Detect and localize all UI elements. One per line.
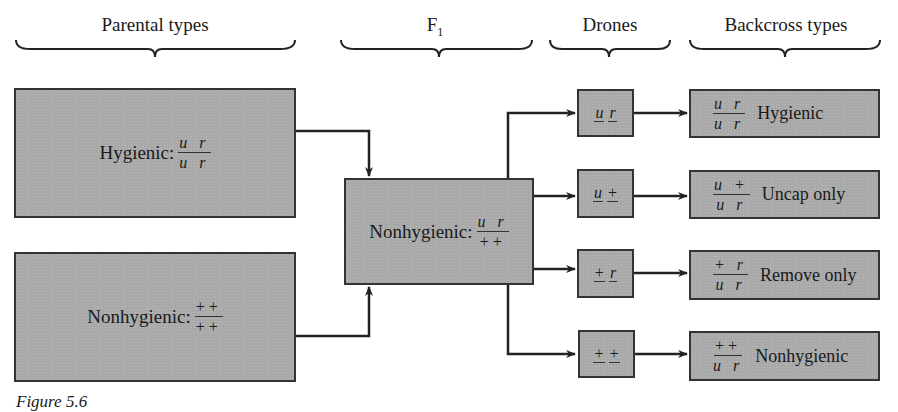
brace-backcross-icon [690,40,880,57]
parental-hygienic-label: Hygienic: [99,142,174,164]
brace-parental-icon [16,40,295,57]
drone-allele-2: + [607,185,618,202]
backcross-label: Nonhygienic [755,346,848,367]
genotype-numerator: + r [713,257,748,275]
drone-box-2: u+ [577,169,634,218]
figure-caption: Figure 5.6 [16,392,87,412]
drone-allele-1: + [594,265,605,282]
f1-box: Nonhygienic: u r ++ [344,178,534,285]
genotype-denominator: ++ [480,232,506,250]
genotype-denominator: u r [716,195,746,213]
backcross-genotype: u + u r [713,177,750,213]
drone-box-1: ur [577,89,634,137]
drone-allele-2: r [609,265,617,282]
brace-f1-icon [341,40,532,57]
backcross-genotype: u r u r [713,96,745,132]
genotype-denominator: u r [713,356,743,374]
parental-hygienic-genotype: u r u r [178,135,210,171]
drone-allele-2: r [608,105,616,122]
backcross-box-uncap-only: u + u r Uncap only [689,170,880,219]
parental-nonhygienic-genotype: ++ ++ [195,299,223,335]
drone-box-3: +r [577,249,634,298]
arrow-f1-to-drone-1 [508,113,575,178]
backcross-genotype: + r u r [713,257,748,293]
backcross-box-remove-only: + r u r Remove only [689,250,880,300]
drone-allele-1: u [594,105,604,122]
f1-genotype: u r ++ [477,214,509,250]
backcross-label: Hygienic [757,103,823,124]
arrow-hygienic-to-f1 [295,131,369,176]
drone-allele-1: + [593,346,604,363]
genotype-denominator: u r [715,275,745,293]
arrow-f1-to-drone-4 [508,284,575,354]
genotype-denominator: u r [714,114,744,132]
drone-box-4: ++ [578,330,635,378]
backcross-box-nonhygienic: ++ u r Nonhygienic [689,331,880,381]
genotype-numerator: u + [713,177,750,195]
arrow-nonhygienic-to-f1 [295,287,369,336]
genotype-numerator: ++ [195,299,223,317]
drone-allele-2: + [609,346,620,363]
genotype-denominator: ++ [196,317,222,335]
genotype-numerator: u r [713,96,745,114]
backcross-genotype: ++ u r [713,338,743,374]
parental-hygienic-box: Hygienic: u r u r [14,88,296,218]
brace-group [16,40,880,57]
backcross-label: Uncap only [762,184,845,205]
parental-nonhygienic-label: Nonhygienic: [87,306,190,328]
parental-nonhygienic-box: Nonhygienic: ++ ++ [14,252,296,382]
backcross-box-hygienic: u r u r Hygienic [689,89,880,138]
backcross-label: Remove only [760,265,857,286]
genotype-numerator: u r [477,214,509,232]
brace-drones-icon [550,40,670,57]
genotype-numerator: ++ [714,338,742,356]
genotype-denominator: u r [179,153,209,171]
f1-label: Nonhygienic: [369,221,472,243]
drone-allele-1: u [593,185,603,202]
genotype-numerator: u r [178,135,210,153]
